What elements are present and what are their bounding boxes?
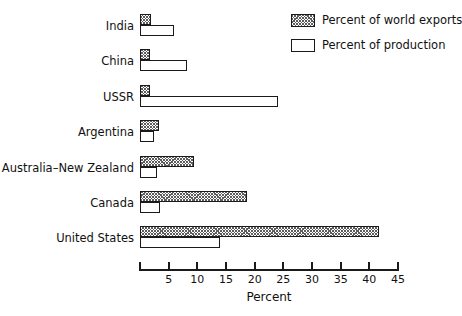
- x-axis-title: Percent: [140, 290, 398, 304]
- x-tick-label: 5: [165, 273, 172, 286]
- legend-swatch-hatched-icon: [291, 14, 315, 27]
- category-label: United States: [56, 226, 140, 250]
- bar-production: [140, 237, 220, 248]
- x-tick: [254, 262, 256, 271]
- bar-exports: [140, 120, 159, 131]
- x-tick: [340, 262, 342, 271]
- x-tick-label: 35: [334, 273, 348, 286]
- bar-exports: [140, 156, 194, 167]
- category-label: China: [101, 49, 140, 73]
- bar-production: [140, 131, 154, 142]
- category-label: Canada: [90, 191, 140, 215]
- legend-label-production: Percent of production: [322, 38, 445, 52]
- x-tick-label: 25: [276, 273, 290, 286]
- category-label: Australia–New Zealand: [2, 156, 140, 180]
- legend-item-production: Percent of production: [291, 38, 462, 52]
- x-axis-line: [140, 269, 398, 271]
- bar-exports: [140, 49, 150, 60]
- x-tick: [168, 262, 170, 271]
- legend-swatch-white-icon: [291, 39, 315, 52]
- legend-item-exports: Percent of world exports: [291, 13, 462, 27]
- bar-production: [140, 96, 278, 107]
- x-tick: [196, 262, 198, 271]
- bar-exports: [140, 226, 379, 237]
- category-label: India: [106, 14, 140, 38]
- bar-production: [140, 167, 157, 178]
- bar-exports: [140, 14, 151, 25]
- x-tick-label: 30: [305, 273, 319, 286]
- bar-production: [140, 60, 187, 71]
- bar-production: [140, 25, 174, 36]
- bar-production: [140, 202, 160, 213]
- x-tick-label: 20: [248, 273, 262, 286]
- x-tick: [282, 262, 284, 271]
- bar-exports: [140, 85, 150, 96]
- x-tick: [139, 262, 141, 271]
- x-tick-label: 15: [219, 273, 233, 286]
- x-tick: [311, 262, 313, 271]
- category-label: USSR: [103, 85, 140, 109]
- x-tick-label: 45: [391, 273, 405, 286]
- category-label: Argentina: [78, 120, 140, 144]
- x-tick-label: 40: [362, 273, 376, 286]
- x-tick: [397, 262, 399, 271]
- bar-exports: [140, 191, 247, 202]
- legend-label-exports: Percent of world exports: [322, 13, 462, 27]
- chart-legend: Percent of world exports Percent of prod…: [291, 13, 462, 63]
- x-tick-label: 10: [190, 273, 204, 286]
- x-tick: [368, 262, 370, 271]
- x-tick: [225, 262, 227, 271]
